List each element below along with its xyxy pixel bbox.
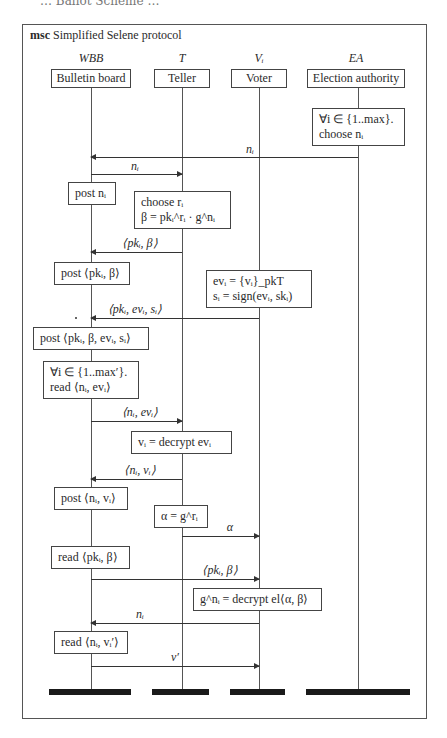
message-label: nᵢ [110,159,160,174]
action-wbb-read-vote: read ⟨nᵢ, vᵢ′⟩ [54,631,128,654]
action-line: ∀i ∈ {1..max′}. [50,365,132,380]
lifeline-ea [358,88,359,689]
lifeline-teller [182,88,183,689]
instance-box-teller: Teller [154,69,210,88]
end-bar-wbb [49,689,131,695]
message-arrow-teller-to-wbb [91,252,182,253]
message-arrow-ea-to-wbb [91,157,358,158]
message-label: ⟨pkᵢ, β⟩ [190,563,250,578]
instance-box-bulletin-board: Bulletin board [51,69,131,88]
action-teller-alpha: α = g^rᵢ [154,505,208,528]
message-arrow-teller-to-wbb [91,479,182,480]
action-wbb-post-vote: post ⟨nᵢ, vᵢ⟩ [54,487,128,510]
title-text: Simplified Selene protocol [53,28,182,42]
end-bar-voter [230,689,285,695]
dot-mark [75,317,77,319]
message-label: v′ [160,650,190,665]
action-line: choose rᵢ [141,195,224,210]
action-line: evᵢ = {vᵢ}_pkT [213,274,305,289]
message-arrow-voter-to-wbb [91,623,259,624]
action-voter-encrypt-sign: evᵢ = {vᵢ}_pkT sᵢ = sign(evᵢ, skᵢ) [206,270,312,308]
action-wbb-read-pk-beta: read ⟨pkᵢ, β⟩ [51,546,130,569]
instance-name-wbb: WBB [51,51,131,66]
action-line: post nᵢ [75,186,109,201]
action-line: vᵢ = decrypt evᵢ [138,435,225,450]
action-line: read ⟨pkᵢ, β⟩ [58,550,123,565]
message-arrow-teller-to-voter [182,536,259,537]
message-label: nᵢ [200,142,300,157]
action-wbb-post-ballot: post ⟨pkᵢ, β, evᵢ, sᵢ⟩ [33,327,149,350]
message-arrow-voter-to-wbb [91,318,259,319]
instance-name-t: T [154,51,210,66]
action-teller-choose-r: choose rᵢ β = pkᵢ^rᵢ · g^nᵢ [134,191,231,229]
message-arrow-wbb-to-voter [91,666,259,667]
action-line: sᵢ = sign(evᵢ, skᵢ) [213,289,305,304]
action-wbb-post-pk-beta: post ⟨pkᵢ, β⟩ [54,262,130,285]
message-arrow-wbb-to-voter [91,579,259,580]
action-wbb-post-nonce: post nᵢ [68,182,116,205]
action-line: ∀i ∈ {1..max}. [319,112,398,127]
message-label: nᵢ [125,607,155,622]
action-line: α = g^rᵢ [161,509,201,524]
instance-box-voter: Voter [231,69,287,88]
message-arrow-wbb-to-teller [91,174,182,175]
action-line: choose nᵢ [319,127,398,142]
action-line: g^nᵢ = decrypt el⟨α, β⟩ [200,592,315,607]
action-line: post ⟨pkᵢ, β⟩ [61,266,123,281]
action-line: β = pkᵢ^rᵢ · g^nᵢ [141,210,224,225]
msc-keyword: msc [30,28,50,42]
message-arrow-wbb-to-teller [91,421,182,422]
action-line: read ⟨nᵢ, evᵢ⟩ [50,380,132,395]
action-line: post ⟨nᵢ, vᵢ⟩ [61,491,121,506]
end-bar-ea [306,689,410,695]
instance-name-vi: Vᵢ [231,51,287,66]
action-wbb-read-all: ∀i ∈ {1..max′}. read ⟨nᵢ, evᵢ⟩ [43,361,139,399]
message-label: ⟨pkᵢ, β⟩ [110,236,170,251]
diagram-title: msc Simplified Selene protocol [30,28,182,43]
message-label: α [215,520,245,535]
message-label: ⟨pkᵢ, evᵢ, sᵢ⟩ [95,302,175,317]
instance-box-election-authority: Election authority [307,69,405,88]
action-line: post ⟨pkᵢ, β, evᵢ, sᵢ⟩ [40,331,142,346]
message-label: ⟨nᵢ, vᵢ⟩ [105,463,175,478]
action-voter-decrypt-el: g^nᵢ = decrypt el⟨α, β⟩ [193,588,322,611]
action-teller-decrypt: vᵢ = decrypt evᵢ [131,431,232,454]
end-bar-teller [152,689,209,695]
cropped-caption-text: … Ballot Scheme … [40,0,159,8]
action-line: read ⟨nᵢ, vᵢ′⟩ [61,635,121,650]
action-ea-choose-nonces: ∀i ∈ {1..max}. choose nᵢ [312,108,405,146]
message-label: ⟨nᵢ, evᵢ⟩ [105,405,175,420]
instance-name-ea: EA [307,51,405,66]
